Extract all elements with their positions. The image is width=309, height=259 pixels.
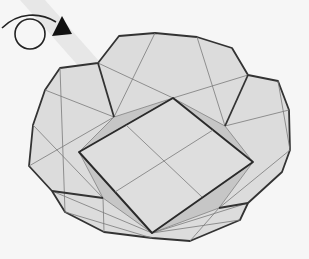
diagram-canvas (0, 0, 309, 259)
origami-diagram (0, 0, 309, 259)
